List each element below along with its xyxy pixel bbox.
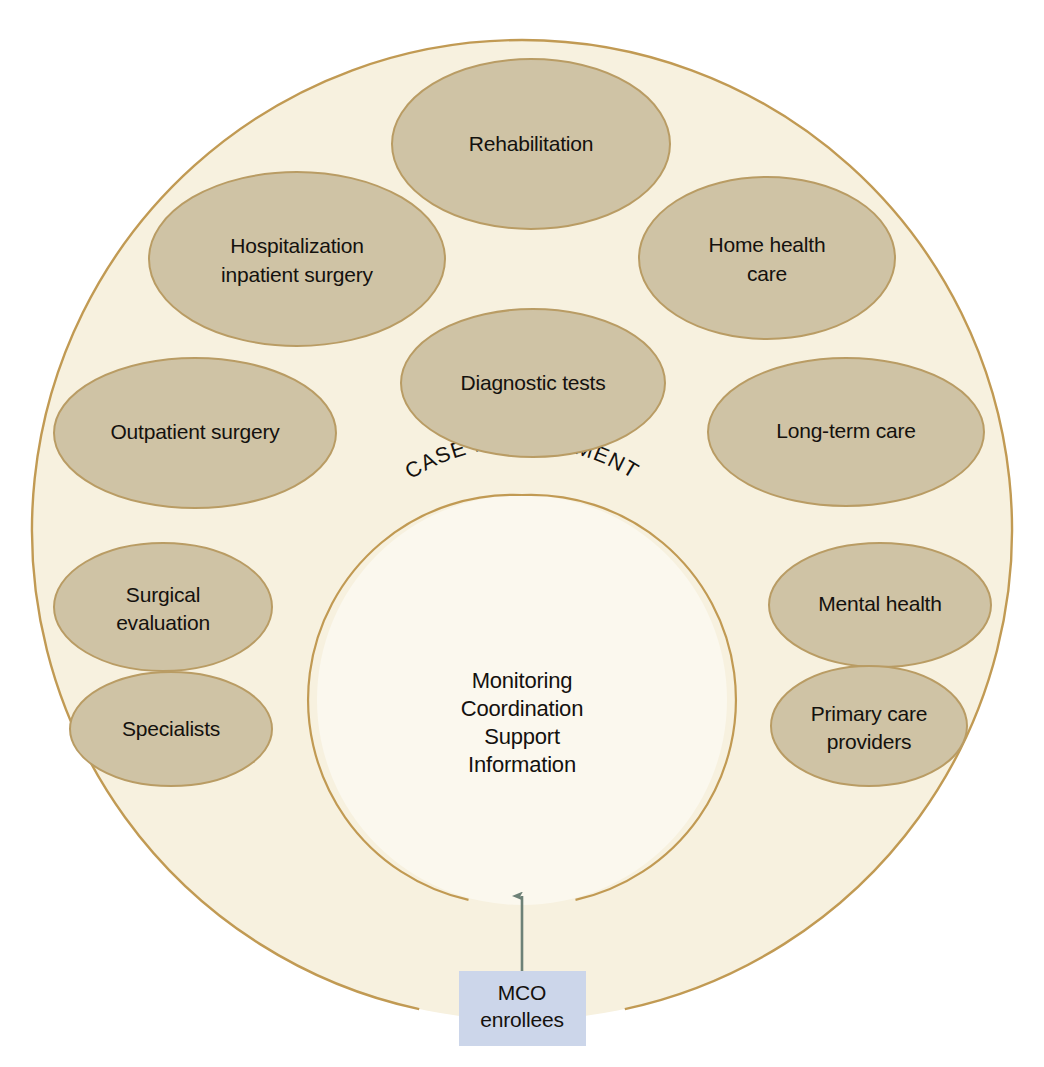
service-node-long-term-care[interactable]: Long-term care [708,358,984,506]
service-label-line-1: Outpatient surgery [110,420,280,443]
service-label-line-1: Rehabilitation [469,132,593,155]
service-label-line-1: Specialists [122,717,220,740]
service-label-line-1: Diagnostic tests [460,371,605,394]
service-node-mental-health[interactable]: Mental health [769,543,991,667]
service-node-rehabilitation[interactable]: Rehabilitation [392,59,670,229]
service-node-outpatient-surgery[interactable]: Outpatient surgery [54,358,336,508]
service-node-home-health-care[interactable]: Home health care [639,177,895,339]
service-ellipse [54,543,272,671]
service-label-line-2: providers [827,730,912,753]
service-label-line-1: Primary care [811,702,928,725]
service-label-line-2: inpatient surgery [221,263,374,286]
service-label-line-1: Mental health [818,592,941,615]
center-line-4: Information [468,752,576,777]
service-label-line-2: care [747,262,787,285]
center-line-1: Monitoring [472,668,573,693]
service-ellipse [639,177,895,339]
service-label-line-1: Surgical [126,583,200,606]
mco-box-line-2: enrollees [480,1008,563,1031]
service-label-line-1: Hospitalization [230,234,364,257]
service-node-diagnostic-tests[interactable]: Diagnostic tests [401,309,665,457]
service-ellipse [771,666,967,786]
service-node-hospitalization-inpatient-surgery[interactable]: Hospitalization inpatient surgery [149,172,445,346]
center-line-3: Support [484,724,560,749]
managed-care-diagram: CASE MANAGEMENT Rehabilitation Hospitali… [0,0,1044,1067]
service-ellipse [149,172,445,346]
mco-enrollees-box[interactable]: MCO enrollees [459,971,586,1046]
diagram-canvas: CASE MANAGEMENT Rehabilitation Hospitali… [0,0,1044,1067]
service-label-line-1: Home health [709,233,826,256]
service-node-specialists[interactable]: Specialists [70,672,272,786]
service-label-line-2: evaluation [116,611,210,634]
service-label-line-1: Long-term care [776,419,916,442]
service-node-surgical-evaluation[interactable]: Surgical evaluation [54,543,272,671]
service-node-primary-care-providers[interactable]: Primary care providers [771,666,967,786]
mco-box-line-1: MCO [498,981,546,1004]
center-line-2: Coordination [461,696,583,721]
